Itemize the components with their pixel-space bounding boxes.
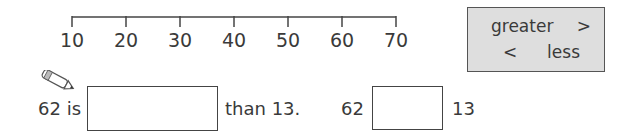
- tick-label-20: 20: [114, 29, 138, 51]
- question1-answer-box[interactable]: [87, 86, 218, 131]
- question2-right-number: 13: [452, 98, 475, 119]
- tick-label-40: 40: [222, 29, 246, 51]
- tick-label-30: 30: [168, 29, 192, 51]
- less-symbol: <: [503, 42, 517, 62]
- tick-label-10: 10: [60, 29, 84, 51]
- greater-word: greater: [491, 16, 553, 36]
- tick-label-50: 50: [276, 29, 300, 51]
- question1-prefix: 62 is: [38, 98, 81, 119]
- pencil-icon: [38, 70, 80, 92]
- question1-suffix: than 13.: [225, 98, 300, 119]
- question2-left-number: 62: [341, 98, 364, 119]
- greater-symbol: >: [577, 16, 591, 36]
- question2-answer-box[interactable]: [372, 86, 443, 130]
- tick-label-70: 70: [384, 29, 408, 51]
- tick-label-60: 60: [330, 29, 354, 51]
- less-word: less: [547, 42, 580, 62]
- symbol-legend-box: greater > < less: [467, 7, 605, 72]
